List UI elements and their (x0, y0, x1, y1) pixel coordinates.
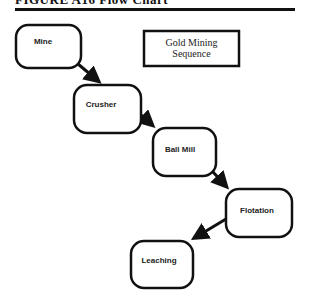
diagram-title-box: Gold Mining Sequence (144, 31, 239, 66)
edge-ball-mill-to-flotation (213, 172, 225, 185)
node-leaching: Leaching (131, 241, 193, 288)
node-mine: Mine (16, 25, 81, 68)
node-label: Crusher (86, 100, 117, 109)
node-crusher: Crusher (74, 85, 141, 133)
diagram-title-line-2: Sequence (172, 48, 211, 59)
edge-mine-to-crusher (78, 64, 97, 80)
node-label: Ball Mill (165, 145, 195, 154)
node-ball-mill: Ball Mill (153, 128, 216, 176)
edge-flotation-to-leaching (196, 219, 226, 237)
node-label: Flotation (240, 206, 274, 215)
node-label: Leaching (141, 256, 176, 265)
flowchart: Gold Mining Sequence Mine Crusher Ball M… (0, 0, 309, 305)
diagram-title-line-1: Gold Mining (166, 37, 218, 48)
node-label: Mine (34, 37, 53, 46)
node-flotation: Flotation (226, 189, 292, 237)
